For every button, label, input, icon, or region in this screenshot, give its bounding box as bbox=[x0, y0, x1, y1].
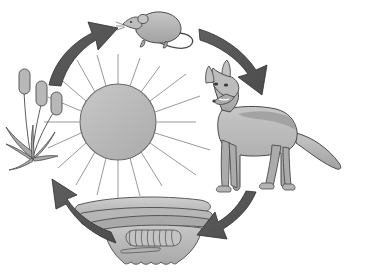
mouse-ear bbox=[138, 14, 148, 23]
diagram-canvas bbox=[0, 0, 366, 276]
coyote-tail bbox=[296, 133, 341, 169]
arrow-producer-to-mouse bbox=[49, 22, 118, 86]
coyote-icon bbox=[206, 60, 341, 192]
coyote-front-legs bbox=[221, 140, 237, 190]
mouse-icon bbox=[116, 12, 193, 48]
cattail-leaves bbox=[6, 125, 58, 170]
coyote-nose bbox=[212, 99, 215, 102]
cycle-diagram bbox=[0, 0, 366, 276]
sun-icon bbox=[44, 54, 210, 200]
mouse-eye bbox=[130, 21, 132, 23]
sun-disc bbox=[80, 84, 156, 160]
